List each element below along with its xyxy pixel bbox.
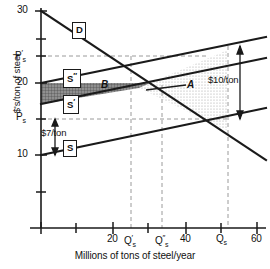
y-tick-ps-prime: P′s — [15, 48, 26, 63]
x-tick-qs-dprime-sub: s — [165, 241, 168, 248]
x-tick-qs-dprime-base: Q — [155, 235, 163, 246]
curve-label-supply-prime-sup: ′ — [73, 97, 75, 106]
x-tick-qs-base: Q — [216, 233, 224, 244]
curve-label-supply-dprime: S″ — [63, 69, 81, 88]
curve-label-supply: S — [63, 140, 77, 157]
y-tick-ps-sub: s — [22, 117, 25, 124]
y-tick-ps: Ps — [16, 111, 26, 124]
curve-label-demand: D — [72, 22, 86, 39]
x-tick-60: 60 — [251, 233, 262, 244]
region-label-a: A — [187, 79, 194, 90]
x-tick-qs-dprime: Q″s — [155, 233, 168, 248]
x-tick-qs-prime-sub: s — [133, 241, 136, 248]
x-tick-qs-prime-base: Q — [124, 235, 132, 246]
y-tick-30: 30 — [17, 4, 28, 15]
x-tick-40: 40 — [180, 233, 191, 244]
curve-label-supply-dprime-sup: ″ — [73, 71, 77, 80]
y-tick-20: 20 — [17, 76, 28, 87]
curve-label-supply-prime: S′ — [63, 95, 79, 114]
x-tick-qs-sub: s — [224, 239, 227, 246]
region-label-b: B — [101, 79, 108, 90]
x-tick-qs: Qs — [216, 233, 227, 246]
y-tick-10: 10 — [17, 148, 28, 159]
x-tick-20: 20 — [107, 233, 118, 244]
annotation-tax-high: $10/ton — [208, 74, 238, 85]
chart-figure: $'s/ton of steel Millions of tons of ste… — [0, 0, 270, 269]
x-tick-qs-prime: Q′s — [124, 233, 136, 248]
y-tick-ps-prime-sub: s — [22, 56, 25, 63]
x-axis-title: Millions of tons of steel/year — [0, 250, 270, 261]
axis-lines — [30, 8, 266, 228]
annotation-tax-low: $7/ton — [41, 127, 66, 138]
